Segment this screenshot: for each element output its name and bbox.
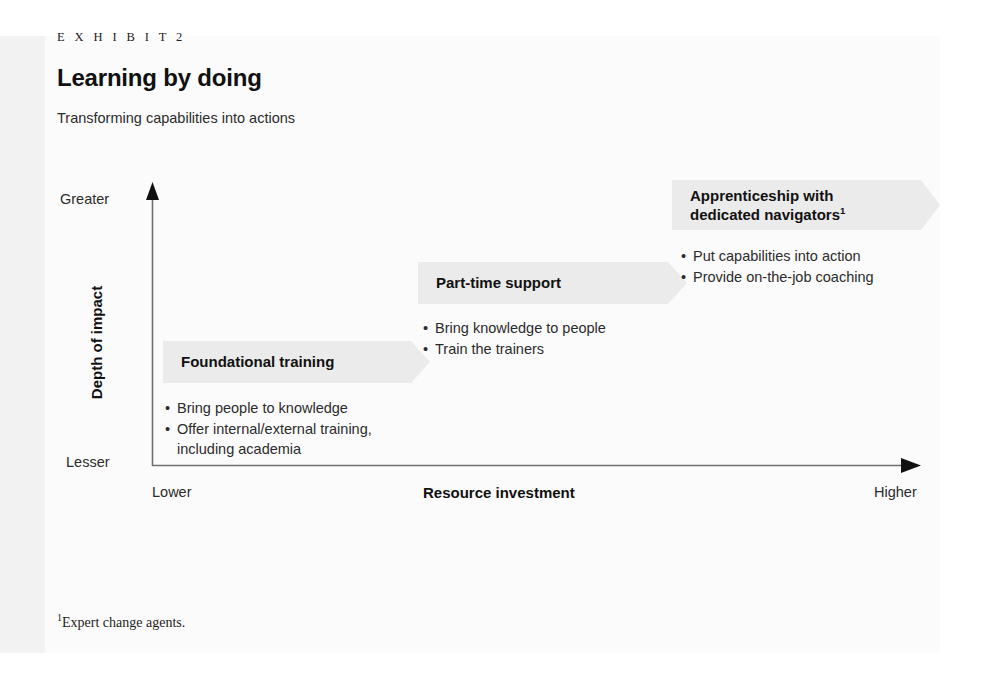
list-item-text: Train the trainers xyxy=(435,339,723,360)
list-item-text: Put capabilities into action xyxy=(693,246,981,267)
list-item: • Bring people to knowledge xyxy=(165,398,465,419)
bullet-dot-icon: • xyxy=(423,339,435,360)
page-left-gutter xyxy=(0,36,45,653)
y-axis-title: Depth of impact xyxy=(88,243,105,443)
stage-banner-label: Foundational training xyxy=(163,352,334,371)
list-item: • Provide on-the-job coaching xyxy=(681,267,981,288)
stage-banner-foundational-training: Foundational training xyxy=(163,341,411,383)
bullet-dot-icon: • xyxy=(165,398,177,419)
list-item-text: Provide on-the-job coaching xyxy=(693,267,981,288)
bullet-dot-icon: • xyxy=(681,267,693,288)
stage-banner-part-time-support: Part-time support xyxy=(418,262,668,304)
stage-bullets-part-time-support: • Bring knowledge to people • Train the … xyxy=(423,318,723,359)
footnote-text: Expert change agents. xyxy=(62,615,185,630)
list-item: • Bring knowledge to people xyxy=(423,318,723,339)
stage-banner-label-line1: Apprenticeship with xyxy=(690,187,833,204)
bullet-dot-icon: • xyxy=(165,419,177,440)
page-subtitle: Transforming capabilities into actions xyxy=(57,110,295,126)
page-title: Learning by doing xyxy=(57,64,262,92)
list-item-text: Offer internal/external training, includ… xyxy=(177,419,465,460)
arrow-tip-icon xyxy=(921,180,940,230)
bullet-dot-icon: • xyxy=(423,318,435,339)
footnote: 1Expert change agents. xyxy=(57,612,185,631)
x-axis-title: Resource investment xyxy=(423,484,575,501)
list-item-text: Bring knowledge to people xyxy=(435,318,723,339)
x-axis-tick-higher: Higher xyxy=(874,484,917,500)
page-bottom-margin xyxy=(0,653,984,693)
stage-banner-apprenticeship: Apprenticeship with dedicated navigators… xyxy=(672,180,921,230)
bullet-dot-icon: • xyxy=(681,246,693,267)
y-axis-tick-lesser: Lesser xyxy=(66,454,110,470)
exhibit-label: E X H I B I T 2 xyxy=(57,30,186,45)
footnote-marker: 1 xyxy=(840,205,845,216)
stage-bullets-foundational-training: • Bring people to knowledge • Offer inte… xyxy=(165,398,465,460)
stage-banner-label: Apprenticeship with dedicated navigators… xyxy=(672,186,845,224)
x-axis-tick-lower: Lower xyxy=(152,484,192,500)
list-item: • Offer internal/external training, incl… xyxy=(165,419,465,460)
stage-banner-label: Part-time support xyxy=(418,273,561,292)
stage-banner-label-line2: dedicated navigators xyxy=(690,206,840,223)
y-axis-tick-greater: Greater xyxy=(60,191,109,207)
list-item-text: Bring people to knowledge xyxy=(177,398,465,419)
list-item: • Train the trainers xyxy=(423,339,723,360)
list-item: • Put capabilities into action xyxy=(681,246,981,267)
stage-bullets-apprenticeship: • Put capabilities into action • Provide… xyxy=(681,246,981,287)
